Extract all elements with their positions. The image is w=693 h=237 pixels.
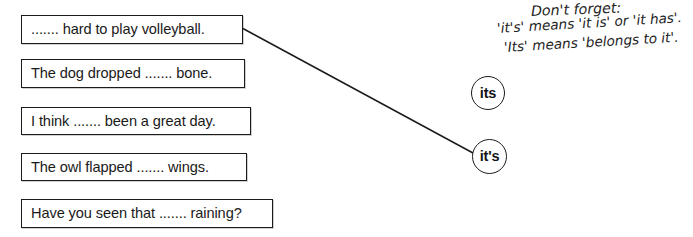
sentence-text-2: The dog dropped ....... bone. xyxy=(31,66,212,81)
worksheet-canvas: ....... hard to play volleyball. The dog… xyxy=(0,0,693,237)
sentence-text-3: I think ....... been a great day. xyxy=(31,114,216,129)
sentence-box-1[interactable]: ....... hard to play volleyball. xyxy=(21,15,243,44)
answer-bubble-its-apostrophe[interactable]: it's xyxy=(472,139,507,174)
answer-bubble-its-label: its xyxy=(480,85,496,100)
sentence-box-4[interactable]: The owl flapped ....... wings. xyxy=(21,153,247,181)
sentence-text-5: Have you seen that ....... raining? xyxy=(31,206,242,221)
sentence-box-5[interactable]: Have you seen that ....... raining? xyxy=(21,199,273,228)
answer-bubble-its[interactable]: its xyxy=(471,76,505,110)
sentence-text-4: The owl flapped ....... wings. xyxy=(31,160,209,175)
reminder-note-line-3: 'Its' means 'belongs to it'. xyxy=(504,31,679,55)
reminder-note: Don't forget: 'it's' means 'it is' or 'i… xyxy=(487,2,693,64)
sentence-text-1: ....... hard to play volleyball. xyxy=(31,22,205,37)
connector-line-sentence1-to-its xyxy=(242,28,473,153)
sentence-box-2[interactable]: The dog dropped ....... bone. xyxy=(21,59,245,88)
answer-bubble-its-apostrophe-label: it's xyxy=(480,149,500,164)
sentence-box-3[interactable]: I think ....... been a great day. xyxy=(21,107,251,135)
